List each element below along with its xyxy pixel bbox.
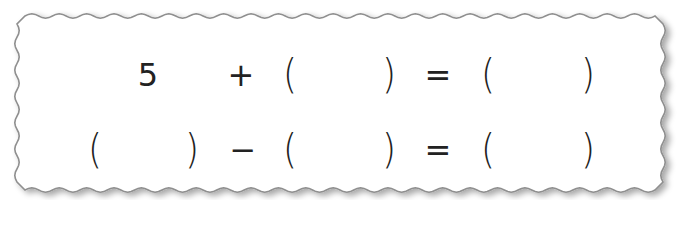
open-paren: ( xyxy=(481,57,495,91)
close-paren: ) xyxy=(581,132,595,166)
close-paren: ) xyxy=(185,132,199,166)
answer-blank[interactable] xyxy=(498,130,578,170)
open-paren: ( xyxy=(283,132,297,166)
close-paren: ) xyxy=(382,57,396,91)
answer-blank[interactable] xyxy=(300,55,380,95)
plus-sign: + xyxy=(228,58,255,92)
open-paren: ( xyxy=(481,132,495,166)
open-paren: ( xyxy=(283,57,297,91)
equals-sign: = xyxy=(425,133,452,167)
answer-blank[interactable] xyxy=(498,55,578,95)
close-paren: ) xyxy=(581,57,595,91)
equals-sign: = xyxy=(425,58,452,92)
open-paren: ( xyxy=(88,132,102,166)
number-five: 5 xyxy=(138,58,158,92)
answer-blank[interactable] xyxy=(105,130,183,170)
close-paren: ) xyxy=(382,132,396,166)
minus-sign: − xyxy=(230,133,257,167)
answer-blank[interactable] xyxy=(300,130,380,170)
